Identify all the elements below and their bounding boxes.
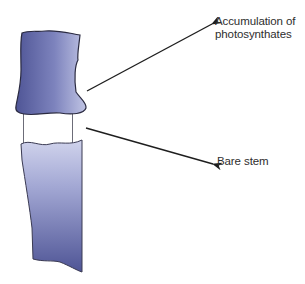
arrow-accumulation [87, 24, 212, 91]
label-accumulation-line1: Accumulation of [215, 15, 295, 28]
label-accumulation-line2: photosynthates [215, 28, 295, 41]
stem-diagram [0, 0, 305, 284]
lower-stem [21, 140, 82, 272]
upper-stem [16, 31, 86, 115]
label-bare-stem: Bare stem [217, 155, 269, 168]
label-accumulation-of-photosynthates: Accumulation of photosynthates [215, 15, 295, 41]
arrow-bare-stem [86, 128, 213, 164]
